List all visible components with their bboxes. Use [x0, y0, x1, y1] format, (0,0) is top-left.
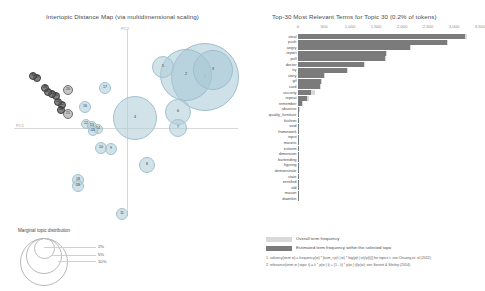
- topic-bubble-24[interactable]: 24: [57, 106, 65, 114]
- term-row[interactable]: repeat: [298, 96, 480, 101]
- x-tick-label: 2,000: [397, 24, 407, 29]
- marginal-topic-distribution-legend: Marginal topic distribution 2% 5% 10%: [18, 228, 138, 286]
- topic-bubble-label: 15: [89, 129, 97, 133]
- term-row[interactable]: gif: [298, 79, 480, 84]
- legend-label-2pct: 2%: [98, 244, 104, 249]
- term-row[interactable]: angry: [298, 45, 480, 50]
- term-row[interactable]: framework: [298, 129, 480, 134]
- footnote-relevance: 2. relevance(term w | topic t) = λ * p(w…: [266, 263, 410, 267]
- bar-topic-frequency: [298, 62, 364, 67]
- term-label: fashion: [284, 119, 297, 123]
- topic-bubble-8[interactable]: 8: [139, 157, 155, 173]
- topic-bubble-11[interactable]: 11: [116, 208, 128, 220]
- topic-bubble-3[interactable]: 3: [193, 50, 233, 90]
- term-row[interactable]: remember: [298, 101, 480, 106]
- legend-tick-10pct: [58, 261, 96, 262]
- map-x-axis-label: PC1: [16, 123, 24, 128]
- bar-topic-frequency: [298, 101, 302, 106]
- footnote-saliency: 1. saliency(term w) = frequency(w) * [su…: [266, 256, 431, 260]
- topic-bubble-label: 5: [153, 65, 173, 69]
- topic-bubble-4[interactable]: 4: [113, 96, 157, 140]
- topic-bubble-label: 24: [58, 108, 64, 111]
- term-label: mason: [285, 191, 297, 195]
- term-row[interactable]: security: [298, 90, 480, 95]
- term-row[interactable]: void: [298, 124, 480, 129]
- topic-bubble-20[interactable]: 20: [63, 85, 73, 95]
- term-label: void: [289, 124, 296, 128]
- term-row[interactable]: bartending: [298, 157, 480, 162]
- topic-bubble-label: 21: [64, 112, 72, 116]
- topic-bubble-label: 28: [42, 86, 48, 89]
- topic-bubble-7[interactable]: 7: [169, 119, 187, 137]
- legend-label-5pct: 5%: [98, 252, 104, 257]
- term-row[interactable]: steal: [298, 34, 480, 39]
- topic-bubble-19[interactable]: 19: [72, 180, 84, 192]
- term-row[interactable]: mounts: [298, 140, 480, 145]
- bar-topic-frequency: [298, 124, 299, 129]
- x-tick-label: 0: [297, 24, 299, 29]
- term-row[interactable]: dimension: [298, 152, 480, 157]
- topic-bubble-label: 17: [100, 86, 110, 90]
- topic-bubble-5[interactable]: 5: [152, 56, 174, 78]
- term-row[interactable]: fashion: [298, 118, 480, 123]
- term-row[interactable]: quality_furniture: [298, 112, 480, 117]
- topic-bubble-15[interactable]: 15: [88, 126, 98, 136]
- bar-topic-frequency: [298, 112, 299, 117]
- legend-tick-5pct: [51, 255, 96, 256]
- term-label: push: [288, 40, 296, 44]
- topic-bubble-28[interactable]: 28: [41, 84, 49, 92]
- topic-bubble-17[interactable]: 17: [99, 82, 111, 94]
- bar-topic-frequency: [298, 84, 320, 89]
- topic-bubble-30[interactable]: 30: [29, 72, 37, 80]
- map-y-axis-label: PC2: [121, 26, 129, 31]
- term-row[interactable]: dawnkin: [298, 196, 480, 201]
- bar-topic-frequency: [298, 107, 299, 112]
- x-tick-label: 1,000: [345, 24, 355, 29]
- term-row[interactable]: old: [298, 185, 480, 190]
- barchart-title: Top-30 Most Relevant Terms for Topic 30 …: [272, 13, 437, 20]
- term-row[interactable]: enrolled: [298, 180, 480, 185]
- term-row[interactable]: pull: [298, 56, 480, 61]
- bar-topic-frequency: [298, 79, 321, 84]
- x-tick-label: 3,500: [475, 24, 485, 29]
- legend-label-overall: Overall term frequency: [296, 236, 339, 242]
- term-row[interactable]: story: [298, 73, 480, 78]
- term-label: doctor: [286, 63, 297, 67]
- term-label: quality_furniture: [269, 113, 297, 117]
- term-label: steal: [288, 35, 296, 39]
- term-label: try: [292, 68, 296, 72]
- term-row[interactable]: esteem: [298, 146, 480, 151]
- term-label: old: [291, 186, 296, 190]
- term-row[interactable]: absence: [298, 107, 480, 112]
- bar-topic-frequency: [298, 40, 447, 45]
- term-label: enrolled: [283, 180, 297, 184]
- term-row[interactable]: doctor: [298, 62, 480, 67]
- term-label: figuring: [284, 163, 297, 167]
- term-row[interactable]: try: [298, 68, 480, 73]
- term-label: bartending: [278, 158, 296, 162]
- term-label: card: [289, 85, 297, 89]
- term-row[interactable]: mason: [298, 191, 480, 196]
- term-row[interactable]: push: [298, 40, 480, 45]
- term-label: framework: [278, 130, 296, 134]
- top-terms-barchart-panel: Top-30 Most Relevant Terms for Topic 30 …: [252, 0, 484, 291]
- term-row[interactable]: figuring: [298, 163, 480, 168]
- topic-bubble-label: 4: [114, 116, 156, 120]
- x-tick-label: 2,500: [423, 24, 433, 29]
- legend-swatch-overall: [266, 237, 292, 242]
- term-row[interactable]: card: [298, 84, 480, 89]
- topic-bubble-10[interactable]: 10: [95, 142, 107, 154]
- topic-bubble-label: 9: [106, 147, 116, 151]
- x-tick-label: 500: [321, 24, 328, 29]
- term-row[interactable]: demonstrate: [298, 168, 480, 173]
- topic-bubble-label: 19: [73, 184, 83, 188]
- topic-bubble-16[interactable]: 16: [79, 101, 91, 113]
- term-label: absence: [282, 107, 297, 111]
- term-label: esteem: [284, 147, 297, 151]
- term-row[interactable]: report: [298, 51, 480, 56]
- topic-bubble-label: 23: [55, 100, 61, 103]
- term-label: demonstrate: [275, 169, 297, 173]
- term-row[interactable]: input: [298, 135, 480, 140]
- term-label: state: [288, 175, 296, 179]
- term-row[interactable]: state: [298, 174, 480, 179]
